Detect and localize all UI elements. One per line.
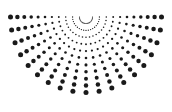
data-point	[42, 50, 46, 54]
data-point	[115, 68, 119, 72]
data-point	[73, 48, 75, 50]
data-point	[118, 22, 120, 24]
data-point	[18, 52, 23, 57]
data-point	[49, 57, 53, 61]
data-point	[143, 49, 147, 53]
data-point	[78, 35, 80, 37]
data-point	[80, 43, 82, 45]
data-point	[73, 21, 74, 22]
data-point	[79, 49, 81, 51]
data-point	[158, 28, 163, 33]
data-point	[68, 60, 71, 63]
data-point	[114, 33, 116, 35]
data-point	[83, 23, 84, 24]
data-point	[149, 52, 154, 57]
data-point	[83, 30, 84, 31]
data-point	[57, 63, 61, 67]
data-point	[90, 29, 91, 30]
data-point	[53, 68, 57, 72]
data-point	[37, 24, 40, 27]
data-point	[128, 67, 132, 71]
data-point	[99, 19, 100, 20]
data-point	[44, 23, 47, 26]
data-point	[97, 89, 102, 94]
data-point	[112, 21, 114, 23]
data-point	[59, 38, 61, 40]
data-point	[85, 50, 87, 52]
data-point	[79, 19, 80, 20]
data-point	[93, 63, 96, 66]
data-point	[43, 39, 46, 42]
data-point	[97, 48, 99, 50]
data-point	[26, 36, 30, 40]
data-point	[111, 47, 114, 50]
data-point	[58, 47, 61, 50]
data-point	[24, 49, 28, 53]
data-point	[89, 22, 90, 23]
data-point	[68, 26, 70, 28]
data-point	[116, 42, 119, 45]
data-point	[64, 34, 66, 36]
data-point	[139, 15, 143, 19]
data-point	[44, 16, 47, 19]
data-point	[106, 34, 108, 36]
data-point	[111, 38, 113, 40]
data-point	[96, 25, 97, 26]
data-point	[49, 74, 53, 78]
data-point	[79, 28, 80, 29]
data-point	[92, 28, 93, 29]
data-point	[145, 26, 149, 30]
data-point	[90, 21, 91, 22]
data-point	[22, 15, 26, 19]
data-point	[131, 55, 135, 59]
data-point	[9, 28, 14, 33]
data-point	[63, 42, 65, 44]
data-point	[121, 80, 126, 85]
data-point	[63, 73, 67, 77]
data-point	[107, 42, 109, 44]
data-point	[136, 34, 140, 38]
data-point	[76, 63, 79, 66]
data-point	[85, 23, 86, 24]
data-point	[37, 55, 41, 59]
data-point	[132, 15, 135, 18]
data-point	[78, 56, 81, 59]
data-point	[154, 40, 159, 45]
data-point	[120, 36, 123, 39]
data-point	[37, 15, 40, 18]
data-point	[119, 57, 123, 61]
data-point	[60, 79, 64, 83]
data-point	[132, 43, 136, 47]
data-point	[58, 21, 60, 23]
data-point	[112, 16, 114, 18]
data-point	[35, 72, 40, 77]
data-point	[142, 36, 146, 40]
data-point	[92, 16, 93, 17]
data-point	[111, 25, 113, 27]
data-point	[136, 59, 140, 63]
data-point	[126, 39, 129, 42]
data-point	[51, 22, 53, 24]
data-point	[95, 34, 97, 36]
data-point	[71, 54, 74, 57]
data-point	[101, 29, 103, 31]
data-point	[49, 36, 52, 39]
data-point	[84, 70, 88, 74]
data-point	[13, 40, 18, 45]
data-point	[72, 19, 73, 20]
data-point	[105, 73, 109, 77]
data-point	[79, 18, 80, 19]
data-point	[33, 34, 37, 38]
data-point	[88, 30, 89, 31]
data-point	[48, 46, 51, 49]
data-point	[46, 80, 51, 85]
data-point	[53, 28, 55, 30]
data-point	[109, 30, 111, 32]
data-point	[117, 28, 119, 30]
data-point	[81, 29, 82, 30]
data-point	[58, 85, 63, 90]
data-point	[79, 16, 80, 17]
data-point	[58, 16, 60, 18]
data-point	[105, 51, 108, 54]
data-point	[132, 72, 137, 77]
